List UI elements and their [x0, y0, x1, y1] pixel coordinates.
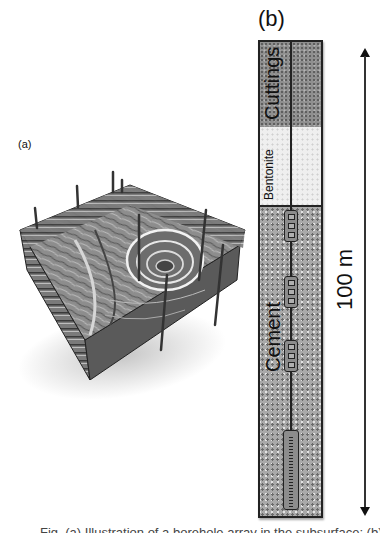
geological-block-model: [15, 150, 250, 380]
layer-label-bentonite: Bentonite: [262, 149, 276, 200]
borehole-column: Cuttings Bentonite Cement: [258, 40, 323, 518]
panel-a-label: (a): [18, 138, 31, 150]
sensor-module: [284, 340, 298, 372]
sensor-module: [284, 276, 298, 308]
scale-label: 100 m: [332, 249, 358, 310]
figure-caption: Fig. (a) Illustration of a borehole arra…: [40, 522, 380, 533]
scale-arrow: [364, 56, 366, 508]
sensor-cable: [290, 42, 292, 472]
anchor-module: [283, 430, 299, 510]
sensor-module: [284, 210, 298, 242]
layer-label-cuttings: Cuttings: [261, 47, 284, 120]
panel-b-label: (b): [258, 6, 285, 32]
arrow-down-icon: [360, 507, 370, 516]
layer-label-cement: Cement: [262, 302, 285, 372]
